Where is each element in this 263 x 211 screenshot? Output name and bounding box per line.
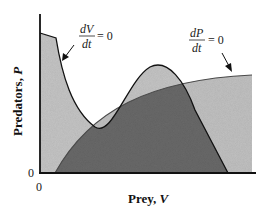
x-origin-label: 0 [36, 180, 42, 194]
y-axis-title-text: Predators, [10, 75, 25, 136]
predator-isocline-denominator: dt [192, 41, 202, 55]
predator-isocline-numerator: dP [190, 26, 204, 40]
predator-isocline-arrow [222, 53, 232, 72]
prey-isocline-label: dV dt = 0 [79, 22, 113, 51]
x-axis-title-text: Prey, [128, 191, 160, 206]
arrow-head-icon [225, 63, 232, 72]
prey-isocline-arrow [62, 45, 74, 61]
y-axis-var: P [10, 66, 25, 75]
predator-isocline-label: dP dt = 0 [189, 26, 224, 55]
x-axis-var: V [160, 191, 170, 206]
arrow-head-icon [62, 53, 69, 61]
x-axis-title: Prey, V [128, 191, 170, 206]
prey-isocline-equals: = 0 [97, 29, 113, 43]
prey-isocline-numerator: dV [80, 22, 95, 36]
predator-isocline-equals: = 0 [208, 33, 224, 47]
y-axis-title: Predators, P [10, 66, 25, 136]
y-origin-label: 0 [28, 166, 34, 180]
isocline-diagram: 0 0 Prey, V Predators, P dV dt = 0 dP dt… [0, 0, 263, 211]
prey-isocline-denominator: dt [82, 37, 92, 51]
